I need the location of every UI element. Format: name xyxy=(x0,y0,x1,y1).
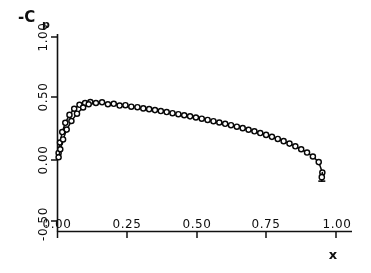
data-point-marker xyxy=(199,116,204,121)
data-point-marker xyxy=(287,141,292,146)
x-tick-label-5: 1.00 xyxy=(322,217,351,231)
data-point-marker xyxy=(58,147,63,152)
y-axis-ticks xyxy=(51,37,57,221)
x-tick-labels: 0.00 0.25 0.50 0.75 1.00 xyxy=(42,217,351,231)
data-point-marker xyxy=(281,139,286,144)
data-point-marker xyxy=(56,155,61,160)
data-point-marker xyxy=(129,104,134,109)
data-point-marker xyxy=(193,115,198,120)
data-point-marker xyxy=(117,103,122,108)
y-tick-labels: 1.00 0.50 0.00 -0.50 xyxy=(36,22,50,241)
data-point-marker xyxy=(299,147,304,152)
data-point-marker xyxy=(258,131,263,136)
data-point-marker xyxy=(176,112,181,117)
data-point-marker xyxy=(293,144,298,149)
data-point-marker xyxy=(67,112,72,117)
data-point-marker xyxy=(240,126,245,131)
data-point-marker xyxy=(228,123,233,128)
y-tick-label-2: 0.50 xyxy=(36,82,50,111)
data-point-marker xyxy=(74,111,79,116)
data-point-marker xyxy=(269,134,274,139)
data-point-marker xyxy=(86,102,91,107)
data-point-marker xyxy=(304,150,309,155)
data-point-marker xyxy=(93,100,98,105)
y-tick-label-1: 1.00 xyxy=(36,22,50,51)
data-point-marker xyxy=(170,111,175,116)
data-plot-layer xyxy=(56,99,325,181)
data-point-marker xyxy=(217,120,222,125)
data-point-marker xyxy=(135,105,140,110)
data-point-marker xyxy=(61,137,66,142)
data-point-marker xyxy=(182,113,187,118)
data-point-marker xyxy=(63,120,68,125)
y-tick-label-3: 0.00 xyxy=(36,145,50,174)
data-point-marker xyxy=(275,136,280,141)
data-point-marker xyxy=(81,105,86,110)
data-point-marker xyxy=(141,106,146,111)
data-point-marker xyxy=(69,118,74,123)
data-point-marker xyxy=(64,127,69,132)
chart-svg: -C p 1.00 0.50 0.00 -0.50 xyxy=(0,0,371,273)
data-point-marker xyxy=(123,103,128,108)
data-point-marker xyxy=(316,160,321,165)
data-point-marker xyxy=(152,108,157,113)
data-point-marker xyxy=(158,109,163,114)
x-axis-label: x xyxy=(329,247,338,262)
data-point-marker xyxy=(205,117,210,122)
pressure-coefficient-chart: -C p 1.00 0.50 0.00 -0.50 xyxy=(0,0,371,273)
y-axis-label-text: -C xyxy=(18,8,35,26)
data-point-marker xyxy=(211,119,216,124)
data-point-marker xyxy=(310,154,315,159)
data-point-marker xyxy=(164,110,169,115)
data-point-marker xyxy=(223,121,228,126)
x-tick-label-2: 0.25 xyxy=(112,217,141,231)
x-tick-label-4: 0.75 xyxy=(251,217,280,231)
data-point-marker xyxy=(100,100,105,105)
x-tick-label-1: 0.00 xyxy=(42,217,71,231)
trailing-edge-marker xyxy=(319,175,324,180)
data-point-marker xyxy=(252,129,257,134)
data-point-marker xyxy=(188,114,193,119)
x-tick-label-3: 0.50 xyxy=(182,217,211,231)
data-point-marker xyxy=(111,101,116,106)
data-point-marker xyxy=(246,127,251,132)
data-point-marker xyxy=(264,132,269,137)
data-point-marker xyxy=(105,102,110,107)
data-point-marker xyxy=(234,124,239,129)
data-point-marker xyxy=(147,107,152,112)
data-point-marker xyxy=(72,106,77,111)
